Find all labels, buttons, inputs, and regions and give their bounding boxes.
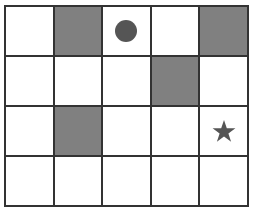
grid-cell	[151, 106, 200, 156]
grid-cell	[151, 156, 200, 206]
grid-cell	[199, 106, 248, 156]
grid-cell-filled	[151, 56, 200, 106]
grid-cell	[151, 6, 200, 56]
grid-cell	[199, 56, 248, 106]
grid-cell	[102, 6, 151, 56]
grid-cell	[54, 56, 103, 106]
grid-cell	[5, 106, 54, 156]
grid-board	[4, 5, 249, 207]
grid-cell-filled	[54, 6, 103, 56]
grid-cell-filled	[54, 106, 103, 156]
grid-cell	[102, 156, 151, 206]
grid-cell	[5, 6, 54, 56]
grid-cell	[54, 156, 103, 206]
grid-cell	[102, 106, 151, 156]
grid-cell-filled	[199, 6, 248, 56]
grid-cell	[102, 56, 151, 106]
circle-icon	[115, 20, 137, 42]
star-icon	[212, 120, 236, 143]
grid-cell	[5, 156, 54, 206]
grid-cell	[5, 56, 54, 106]
grid-cell	[199, 156, 248, 206]
